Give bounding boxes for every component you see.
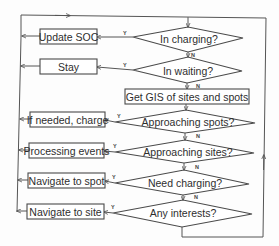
action-update-soc: Update SOC: [39, 29, 99, 44]
decision-approaching-sites: Approaching sites?: [115, 140, 254, 163]
svg-text:If needed, charge: If needed, charge: [27, 114, 109, 126]
svg-text:N: N: [191, 52, 195, 58]
decision-approaching-spots: Approaching spots?: [115, 110, 255, 133]
svg-text:In charging?: In charging?: [160, 33, 218, 45]
decision-need-charging: Need charging?: [115, 170, 249, 195]
svg-text:Navigate to spot: Navigate to spot: [29, 175, 105, 187]
action-if-needed-charge: If needed, charge: [27, 112, 109, 127]
svg-text:Y: Y: [112, 174, 116, 180]
decision-in-charging: In charging?: [133, 27, 243, 52]
action-stay: Stay: [40, 59, 97, 74]
flowchart-svg: Y Y Y Y Y Y N N N N N Update SOC Stay If…: [0, 0, 279, 246]
svg-text:Y: Y: [123, 62, 127, 68]
svg-text:Any interests?: Any interests?: [150, 207, 217, 219]
flowchart-canvas: Y Y Y Y Y Y N N N N N Update SOC Stay If…: [0, 0, 279, 246]
svg-text:Stay: Stay: [58, 61, 80, 73]
svg-text:Y: Y: [111, 204, 115, 210]
svg-text:Y: Y: [123, 30, 127, 36]
action-navigate-to-site: Navigate to site: [27, 204, 104, 219]
svg-text:Need charging?: Need charging?: [148, 177, 222, 189]
svg-text:Y: Y: [113, 143, 117, 149]
action-processing-events: Processing events: [24, 143, 110, 158]
svg-text:Processing events: Processing events: [24, 145, 110, 157]
svg-text:N: N: [195, 164, 199, 170]
svg-text:In waiting?: In waiting?: [163, 65, 213, 77]
decision-any-interests: Any interests?: [113, 200, 252, 227]
svg-text:Get GIS of sites and spots: Get GIS of sites and spots: [126, 91, 249, 103]
process-get-gis: Get GIS of sites and spots: [125, 89, 249, 104]
action-navigate-to-spot: Navigate to spot: [28, 173, 105, 188]
svg-text:Y: Y: [117, 113, 121, 119]
svg-text:Navigate to site: Navigate to site: [29, 206, 102, 218]
svg-text:N: N: [196, 83, 200, 89]
svg-text:N: N: [196, 133, 200, 139]
svg-text:Approaching spots?: Approaching spots?: [142, 116, 235, 128]
svg-text:N: N: [194, 194, 198, 200]
svg-text:Update SOC: Update SOC: [39, 31, 99, 43]
left-return-line: [17, 15, 21, 212]
svg-text:Approaching sites?: Approaching sites?: [143, 146, 232, 158]
decision-in-waiting: In waiting?: [133, 57, 242, 83]
